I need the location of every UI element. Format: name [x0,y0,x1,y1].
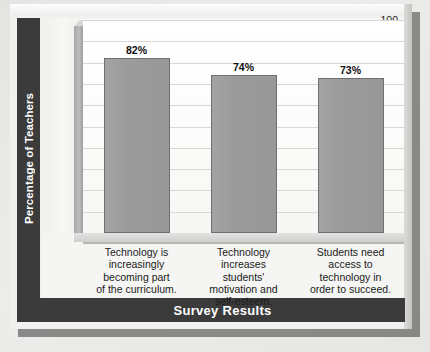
card-right-bevel [404,4,412,329]
category-label-line: increases [190,258,297,270]
bar-value-label: 73% [321,64,381,76]
y-axis-wall [74,26,83,233]
category-label-line: technology in [297,271,404,283]
category-label: Technologyincreasesstudents'motivation a… [190,246,297,307]
category-label: Students needaccess totechnology inorder… [297,246,404,295]
bar [318,78,384,233]
chart-card: Percentage of Teachers Survey Results 10… [10,4,412,329]
category-label-line: students' [190,271,297,283]
category-label-line: Technology [190,246,297,258]
x-axis-floor [74,233,404,242]
y-axis-title: Percentage of Teachers [17,18,40,298]
x-axis-category-labels: Technology isincreasinglybecoming partof… [83,246,404,310]
category-label: Technology isincreasinglybecoming partof… [83,246,190,295]
gridline [83,41,404,42]
category-label-line: increasingly [83,258,190,270]
bar-chart-figure: Percentage of Teachers Survey Results 10… [0,0,430,352]
category-label-line: self-esteem. [190,295,297,307]
bar-value-label: 74% [214,61,274,73]
bar [211,75,277,233]
category-label-line: order to succeed. [297,283,404,295]
x-axis-baseline [83,242,404,244]
bar [104,58,170,233]
bar-value-label: 82% [107,44,167,56]
category-label-line: becoming part [83,271,190,283]
y-tick-gutter [42,18,74,233]
gridline [83,20,404,21]
category-label-line: Technology is [83,246,190,258]
plot-panel: 1009080706050403020100 82%74%73% Technol… [42,18,404,298]
category-label-line: Students need [297,246,404,258]
category-label-line: access to [297,258,404,270]
card-top-bevel [10,4,412,14]
category-label-line: of the curriculum. [83,283,190,295]
category-label-line: motivation and [190,283,297,295]
